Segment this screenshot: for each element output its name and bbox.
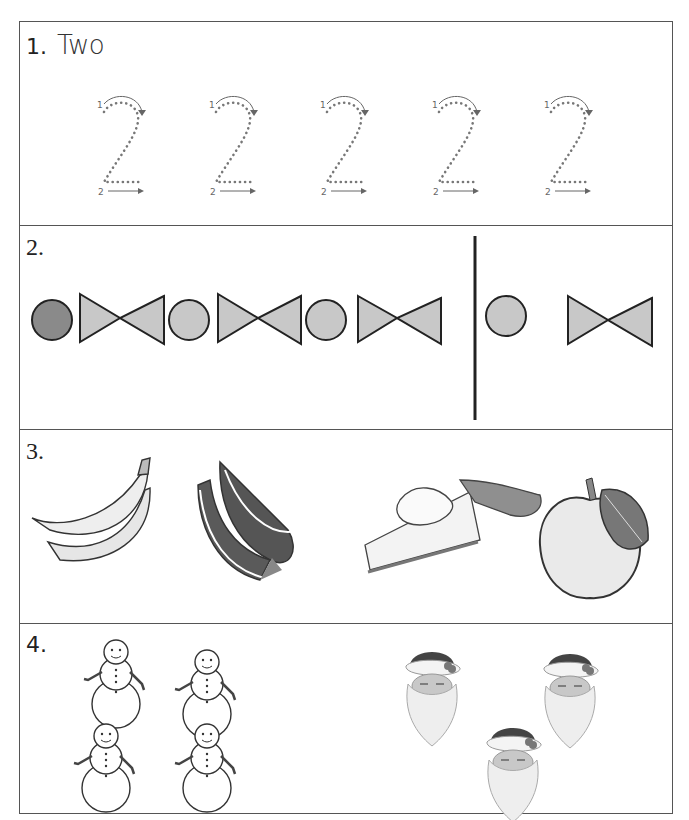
svg-text:1: 1 <box>320 100 326 110</box>
section-4-counting: 4. <box>20 623 672 815</box>
santa-picture <box>544 654 598 748</box>
svg-text:1: 1 <box>544 100 550 110</box>
svg-text:2: 2 <box>321 187 327 197</box>
bowtie-shape <box>80 294 164 344</box>
santa-picture <box>487 728 541 820</box>
watermelon-picture <box>198 462 300 580</box>
snowman-picture <box>84 640 144 728</box>
circle-shape <box>306 300 346 340</box>
pattern-row <box>20 226 674 430</box>
snowman-picture <box>175 724 235 812</box>
bowtie-shape <box>218 294 301 344</box>
answer-bowtie[interactable] <box>568 296 652 346</box>
svg-text:2: 2 <box>210 187 216 197</box>
trace-digit-2[interactable]: 12 <box>432 96 481 197</box>
section-3-pictures: 3. <box>20 429 672 623</box>
section-1-tracing: 1.Two 1212121212 <box>20 22 672 225</box>
svg-text:1: 1 <box>432 100 438 110</box>
trace-digit-2[interactable]: 12 <box>320 96 369 197</box>
circle-shape <box>169 300 209 340</box>
svg-text:1: 1 <box>209 100 215 110</box>
trace-digit-2[interactable]: 12 <box>209 96 258 197</box>
trace-digit-2[interactable]: 12 <box>544 96 593 197</box>
snowman-picture <box>74 724 134 812</box>
bowtie-shape <box>358 296 441 344</box>
svg-text:1: 1 <box>97 100 103 110</box>
answer-circle[interactable] <box>486 296 526 336</box>
pie-picture <box>365 480 541 572</box>
circle-dark-shape <box>32 300 72 340</box>
trace-digit-2[interactable]: 12 <box>97 96 146 197</box>
apple-picture <box>540 478 648 598</box>
section-2-pattern: 2. <box>20 225 672 429</box>
worksheet: 1.Two 1212121212 2. 3. <box>19 21 673 814</box>
banana-picture <box>32 458 150 561</box>
svg-text:2: 2 <box>98 187 104 197</box>
svg-text:2: 2 <box>433 187 439 197</box>
santa-picture <box>406 652 460 746</box>
svg-text:2: 2 <box>545 187 551 197</box>
